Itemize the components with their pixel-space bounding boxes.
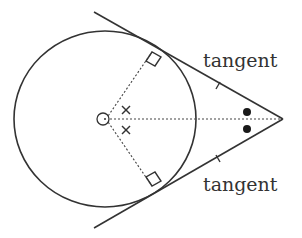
- angle-dot-upper-icon: [243, 108, 251, 116]
- upper-tangent-label: tangent: [203, 49, 278, 71]
- upper-radius: [106, 52, 152, 119]
- lower-tangent-label: tangent: [203, 173, 278, 195]
- angle-cross-lower-icon: [122, 126, 130, 134]
- angle-dot-lower-icon: [243, 125, 251, 133]
- right-angle-marker-lower-icon: [146, 172, 161, 186]
- tangent-diagram: tangent tangent: [0, 0, 302, 238]
- lower-radius: [106, 119, 152, 186]
- center-marker-icon: [97, 113, 109, 125]
- angle-cross-upper-icon: [122, 106, 130, 114]
- right-angle-marker-upper-icon: [146, 52, 161, 66]
- center-dot-icon: [104, 118, 106, 120]
